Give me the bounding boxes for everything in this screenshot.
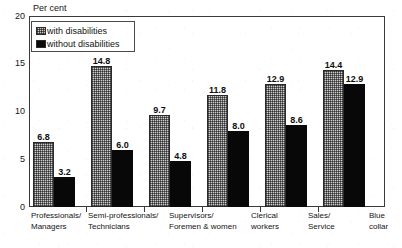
bar-value-label: 6.8	[37, 133, 50, 142]
x-axis-label-line2: Managers	[31, 221, 81, 232]
bar-without-disabilities-professionals-managers: 3.2	[54, 177, 75, 207]
x-axis-labels: Professionals/ Managers Semi-professiona…	[29, 210, 387, 246]
x-axis-label-line1: Blue	[369, 211, 385, 220]
x-axis-label-line1: Sales/	[308, 211, 330, 220]
legend-label-without-disabilities: without disabilities	[47, 39, 120, 49]
y-tick-label-10: 10	[15, 107, 25, 116]
bar-with-disabilities-supervisors-foremen: 9.7	[149, 115, 170, 207]
x-axis-label-semi-professionals-technicians: Semi-professionals/ Technicians	[88, 210, 158, 232]
x-axis-label-professionals-managers: Professionals/ Managers	[31, 210, 81, 232]
legend-item-without-disabilities: without disabilities	[36, 38, 134, 50]
bar-value-label: 8.0	[232, 122, 245, 131]
bar-with-disabilities-professionals-managers: 6.8	[33, 142, 54, 207]
x-axis-label-line1: Professionals/	[31, 211, 81, 220]
bar-value-label: 4.8	[174, 152, 187, 161]
bar-value-label: 11.8	[209, 86, 226, 95]
bar-value-label: 3.2	[58, 168, 71, 177]
y-axis-title: Per cent	[33, 3, 69, 13]
y-tick-label-0: 0	[20, 203, 25, 212]
bar-value-label: 6.0	[116, 141, 129, 150]
y-tick-label-5: 5	[20, 155, 25, 164]
bar-value-label: 12.9	[267, 75, 285, 84]
legend-label-with-disabilities: with disabilities	[47, 26, 107, 36]
bar-group-sales-service: 12.9 8.6	[265, 17, 313, 207]
bar-without-disabilities-clerical-workers: 8.0	[228, 131, 249, 207]
bar-value-label: 14.8	[93, 57, 111, 66]
x-axis-label-line2: workers	[251, 221, 279, 232]
bar-with-disabilities-blue-collar: 14.4	[323, 70, 344, 207]
bar-without-disabilities-sales-service: 8.6	[286, 125, 307, 207]
bar-group-clerical-workers: 11.8 8.0	[207, 17, 255, 207]
x-axis-label-supervisors-foremen: Supervisors/ Foremen & women	[169, 210, 237, 232]
x-axis-label-blue-collar: Blue collar	[369, 210, 388, 232]
y-tick-label-15: 15	[15, 59, 25, 68]
bar-value-label: 9.7	[153, 106, 166, 115]
bar-with-disabilities-clerical-workers: 11.8	[207, 95, 228, 207]
x-axis-label-clerical-workers: Clerical workers	[251, 210, 279, 232]
bar-value-label: 8.6	[290, 116, 303, 125]
bar-value-label: 14.4	[325, 61, 343, 70]
x-axis-label-line1: Semi-professionals/	[88, 211, 158, 220]
x-axis-label-line2: collar	[369, 221, 388, 232]
legend-item-with-disabilities: with disabilities	[36, 25, 134, 37]
x-axis-label-line2: Foremen & women	[169, 221, 237, 232]
bar-without-disabilities-semi-professionals-technicians: 6.0	[112, 150, 133, 207]
solid-black-swatch-icon	[36, 40, 46, 48]
x-axis-label-line2: Technicians	[88, 221, 158, 232]
bar-with-disabilities-semi-professionals-technicians: 14.8	[91, 66, 112, 207]
bar-with-disabilities-sales-service: 12.9	[265, 84, 286, 207]
bar-without-disabilities-blue-collar: 12.9	[344, 84, 365, 207]
bar-value-label: 12.9	[346, 75, 364, 84]
y-axis: 20 15 10 5 0	[0, 0, 28, 248]
x-axis-label-line1: Clerical	[251, 211, 278, 220]
bar-without-disabilities-supervisors-foremen: 4.8	[170, 161, 191, 207]
bar-chart: 20 15 10 5 0 Per cent with disabilities …	[0, 0, 402, 248]
x-axis-label-sales-service: Sales/ Service	[308, 210, 335, 232]
hatched-gray-swatch-icon	[36, 27, 46, 35]
x-axis-label-line1: Supervisors/	[169, 211, 213, 220]
bar-group-blue-collar: 14.4 12.9	[323, 17, 371, 207]
y-tick-label-20: 20	[15, 12, 25, 21]
chart-legend: with disabilities without disabilities	[31, 21, 135, 52]
x-axis-label-line2: Service	[308, 221, 335, 232]
bar-group-supervisors-foremen: 9.7 4.8	[149, 17, 197, 207]
